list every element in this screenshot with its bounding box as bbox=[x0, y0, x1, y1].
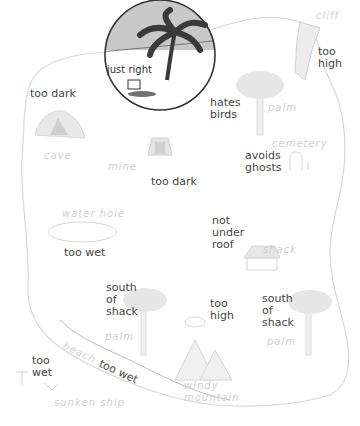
label-just-right: just right bbox=[107, 64, 152, 76]
place-mountain: mountain bbox=[184, 392, 240, 403]
label-palm-ne: hates birds bbox=[210, 97, 241, 121]
water-hole-icon bbox=[48, 222, 116, 242]
place-sunken-ship: sunken ship bbox=[54, 397, 125, 408]
place-palm-sw: palm bbox=[105, 331, 134, 342]
cliff-icon bbox=[295, 22, 320, 80]
windy-mountain-icon bbox=[175, 317, 232, 380]
place-cemetery: cemetery bbox=[272, 138, 328, 149]
label-water-hole: too wet bbox=[64, 247, 105, 259]
place-water-hole: water hole bbox=[62, 208, 125, 219]
place-shack: shack bbox=[263, 244, 297, 255]
label-mine: too dark bbox=[151, 176, 197, 188]
label-shack: not under roof bbox=[212, 215, 244, 251]
label-palm-se: south of shack bbox=[262, 293, 294, 329]
place-palm-ne: palm bbox=[268, 102, 297, 113]
place-cliff: cliff bbox=[316, 10, 339, 21]
label-palm-sw: south of shack bbox=[106, 282, 138, 318]
treasure-map bbox=[0, 0, 360, 426]
place-palm-se: palm bbox=[267, 336, 296, 347]
label-cave: too dark bbox=[30, 88, 76, 100]
place-cave: cave bbox=[44, 150, 72, 161]
place-windy: windy bbox=[184, 380, 219, 391]
treasure-chest-icon bbox=[128, 80, 140, 89]
label-sunken-ship: too wet bbox=[32, 355, 52, 379]
cemetery-icon bbox=[290, 152, 308, 170]
mine-entrance-icon bbox=[155, 142, 165, 154]
label-cliff: too high bbox=[318, 46, 342, 70]
place-mine: mine bbox=[108, 161, 137, 172]
just-right-spot bbox=[100, 0, 220, 120]
label-mountain: too high bbox=[210, 298, 234, 322]
label-cemetery: avoids ghosts bbox=[245, 150, 281, 174]
